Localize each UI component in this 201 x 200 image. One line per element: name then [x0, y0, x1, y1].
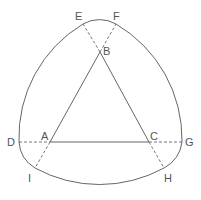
label-a: A: [41, 131, 48, 142]
dashed-c-h: [149, 142, 164, 168]
label-g: G: [185, 137, 194, 148]
geometry-diagram: A B C D E F G H I: [0, 0, 201, 200]
outer-curve: [19, 20, 182, 185]
label-b: B: [103, 46, 110, 57]
label-i: I: [28, 173, 31, 184]
label-c: C: [150, 131, 158, 142]
triangle-abc: [50, 52, 149, 142]
label-f: F: [113, 11, 120, 22]
dashed-a-i: [35, 142, 50, 168]
diagram-canvas: [0, 0, 201, 200]
label-h: H: [164, 173, 172, 184]
label-e: E: [75, 11, 82, 22]
label-d: D: [7, 137, 15, 148]
dashed-b-e: [83, 24, 100, 52]
